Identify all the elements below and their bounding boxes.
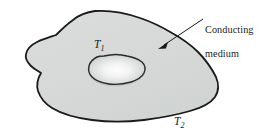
conducting-medium-callout-label: Conducting medium: [205, 12, 254, 72]
callout-line-1: Conducting: [205, 24, 254, 36]
outer-temperature-subscript: 2: [181, 121, 185, 130]
callout-line-2: medium: [205, 48, 254, 60]
inner-temperature-label: T1: [94, 38, 105, 53]
cavity-body: [89, 55, 145, 85]
outer-temperature-label: T2: [174, 115, 185, 130]
conducting-medium-figure: Conducting medium T1 T2: [0, 0, 268, 135]
inner-temperature-subscript: 1: [101, 44, 105, 53]
